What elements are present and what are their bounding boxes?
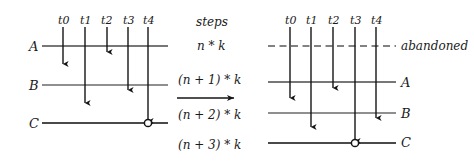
left-diagram-message-arrows: [63, 27, 148, 121]
right-diagram-message-arrows: [290, 27, 376, 141]
left-commit-circle-marker: [144, 119, 151, 126]
figure-canvas: t0 t1 t2 t3 t4 A B C steps n * k (n + 1)…: [0, 0, 474, 163]
right-commit-circle-marker: [351, 139, 358, 146]
left-diagram-tracks: [42, 46, 168, 123]
right-diagram-tracks: [268, 46, 396, 143]
diagram-vector-layer: [0, 0, 474, 163]
